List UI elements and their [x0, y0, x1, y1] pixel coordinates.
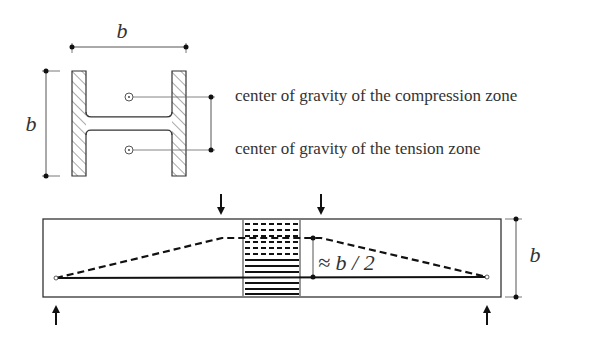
lever-arm-label: ≈ b / 2 — [318, 250, 375, 275]
tension-zone-label: center of gravity of the tension zone — [235, 139, 480, 158]
diagram-canvas: b b center of gravity of the — [0, 0, 603, 341]
load-arrow-left-icon — [217, 194, 225, 215]
compression-centroid-icon — [125, 93, 133, 101]
support-arrow-left-icon — [52, 305, 60, 325]
beam-height-dimension — [505, 217, 522, 300]
h-section: b b — [26, 18, 216, 179]
support-arrow-right-icon — [483, 305, 491, 325]
beam: ≈ b / 2 b — [43, 194, 541, 325]
section-height-label: b — [26, 111, 37, 136]
height-dimension — [42, 69, 60, 179]
tension-tie — [56, 277, 487, 278]
tension-centroid-icon — [125, 146, 133, 154]
beam-height-label: b — [530, 242, 541, 267]
section-width-label: b — [117, 18, 128, 43]
width-dimension — [70, 43, 189, 53]
load-arrow-right-icon — [317, 194, 325, 215]
compression-zone-label: center of gravity of the compression zon… — [235, 86, 517, 105]
